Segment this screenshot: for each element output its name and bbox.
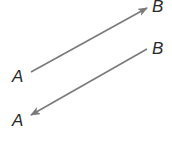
diagram-canvas: B A B A [0, 0, 172, 143]
label-bottom-b: B [152, 40, 163, 57]
arrows-svg [0, 0, 172, 143]
label-top-a: A [12, 68, 23, 85]
arrow-a-to-b [31, 8, 147, 72]
arrow-b-to-a [31, 49, 147, 115]
label-top-b: B [152, 0, 163, 15]
label-bottom-a: A [12, 112, 23, 129]
